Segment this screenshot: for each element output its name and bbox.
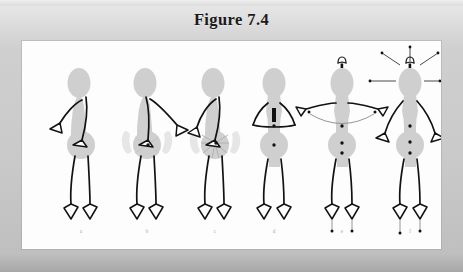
figure-e-hand-dot-left (308, 111, 311, 114)
figure-b-pelvis-dot (146, 143, 149, 146)
figure-e-hand-dot-right (374, 111, 377, 114)
figure-d: d (253, 68, 295, 234)
figure-title: Figure 7.4 (0, 10, 463, 30)
figure-label-f: f (409, 228, 411, 234)
figure-panel: .body { fill:#cfcfcf; } .halo { fill:#e6… (22, 41, 441, 249)
figure-label-a: a (80, 228, 83, 234)
figure-c: c (188, 68, 240, 234)
figure-label-e: e (341, 228, 344, 234)
figure-f-chest-dot (408, 124, 411, 127)
figure-d-chest-dot (272, 124, 275, 127)
figure-f: f (369, 46, 441, 235)
figure-label-c: c (214, 228, 217, 234)
figure-a: a (50, 68, 97, 234)
figure-e-pelvis-dot (340, 141, 343, 144)
figure-illustration: .body { fill:#cfcfcf; } .halo { fill:#e6… (22, 41, 441, 249)
figure-f-pelvis-dot (408, 140, 411, 143)
figure-e-head-arrow (338, 57, 346, 68)
figure-e: e (296, 57, 388, 234)
figure-d-pelvis-dot (272, 143, 275, 146)
plate-bottom-shadow (0, 254, 463, 272)
figure-c-pelvis-dot (214, 141, 217, 144)
figure-d-chest-bar (272, 108, 276, 122)
figure-label-b: b (146, 228, 149, 234)
figure-f-hip-dot (408, 151, 411, 154)
figure-e-chest-dot (340, 124, 343, 127)
figure-plate: Figure 7.4 .body { fill:#cfcfcf; } .halo… (0, 0, 463, 272)
figure-b: b (122, 68, 188, 234)
figure-label-d: d (273, 228, 276, 234)
figure-e-hip-dot (340, 151, 343, 154)
